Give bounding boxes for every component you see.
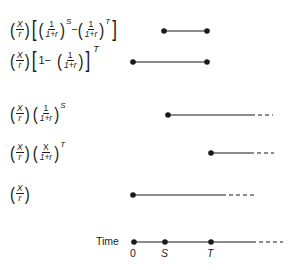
start-point-dot	[130, 59, 136, 65]
time-point-dot	[162, 239, 168, 245]
time-point-dot	[131, 239, 137, 245]
start-point-dot	[161, 28, 167, 34]
time-tick-label: 0	[130, 247, 136, 259]
start-point-dot	[130, 192, 136, 198]
time-point-dot	[208, 239, 214, 245]
start-point-dot	[208, 150, 214, 156]
time-tick-label: S	[161, 247, 168, 259]
time-tick-label: T	[207, 247, 213, 259]
end-point-dot	[204, 59, 210, 65]
end-point-dot	[204, 28, 210, 34]
start-point-dot	[165, 112, 171, 118]
cashflow-timeline-diagram	[0, 0, 296, 270]
time-axis-label: Time	[96, 235, 119, 247]
